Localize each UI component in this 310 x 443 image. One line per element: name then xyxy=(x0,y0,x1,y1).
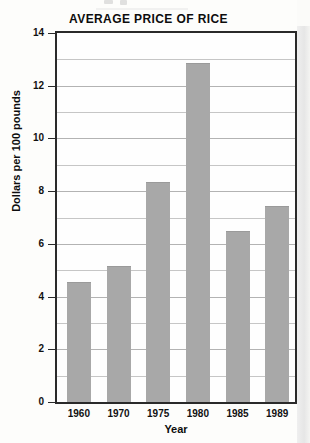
cropped-text-remnant xyxy=(96,8,188,10)
gridline xyxy=(57,297,295,298)
gridline xyxy=(57,138,295,139)
bar-1989 xyxy=(265,206,289,402)
y-axis-title: Dollars per 100 pounds xyxy=(10,71,22,231)
y-axis-tick-label: 10 xyxy=(0,132,44,143)
y-axis-tick xyxy=(48,138,55,139)
cropped-text-remnant xyxy=(104,0,113,4)
y-axis-tick xyxy=(48,244,55,245)
y-axis-tick-label: 2 xyxy=(0,343,44,354)
bar-1980 xyxy=(186,63,210,402)
y-axis-tick-label: 4 xyxy=(0,291,44,302)
y-axis-tick xyxy=(48,349,55,350)
y-axis-tick-label: 8 xyxy=(0,185,44,196)
bar-1985 xyxy=(226,231,250,402)
gridline xyxy=(57,112,295,113)
chart-page: AVERAGE PRICE OF RICE Dollars per 100 po… xyxy=(0,0,310,443)
y-axis-tick xyxy=(48,297,55,298)
gridline xyxy=(57,376,295,377)
y-axis-tick-label: 14 xyxy=(0,27,44,38)
y-axis-tick-label: 0 xyxy=(0,396,44,407)
plot-area xyxy=(55,31,297,404)
x-axis-tick-label: 1989 xyxy=(253,408,301,419)
plot-inner xyxy=(57,33,295,402)
chart-title: AVERAGE PRICE OF RICE xyxy=(0,12,297,26)
bar-1960 xyxy=(67,282,91,402)
x-axis-title: Year xyxy=(55,423,297,435)
y-axis-tick xyxy=(48,86,55,87)
gridline xyxy=(57,165,295,166)
y-axis-tick-label: 12 xyxy=(0,80,44,91)
bar-1970 xyxy=(107,266,131,402)
y-axis-tick xyxy=(48,33,55,34)
scan-page-edge-band-top xyxy=(297,0,310,26)
gridline xyxy=(57,191,295,192)
gridline xyxy=(57,270,295,271)
gridline xyxy=(57,323,295,324)
gridline xyxy=(57,349,295,350)
gridline xyxy=(57,244,295,245)
gridline xyxy=(57,218,295,219)
y-axis-tick xyxy=(48,402,55,403)
gridline xyxy=(57,59,295,60)
y-axis-tick xyxy=(48,191,55,192)
scan-page-edge-band xyxy=(297,0,310,443)
y-axis-tick-label: 6 xyxy=(0,238,44,249)
cropped-text-remnant xyxy=(120,0,127,5)
gridline xyxy=(57,86,295,87)
bar-1975 xyxy=(146,182,170,402)
